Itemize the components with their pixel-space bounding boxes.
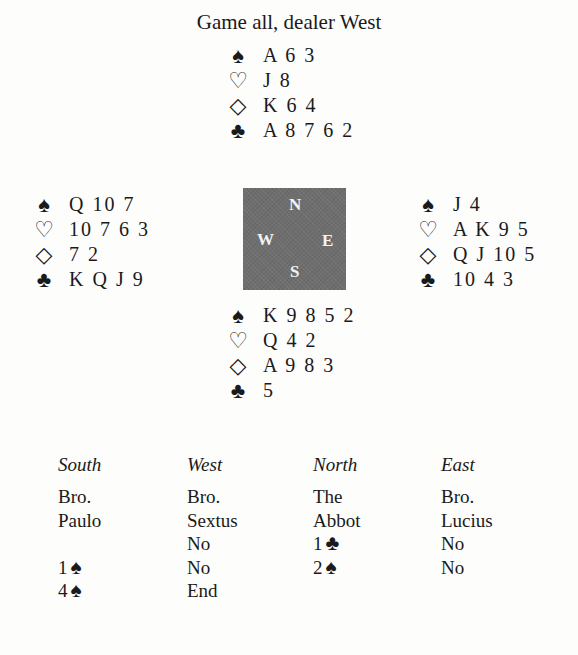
spade-icon: ♠: [417, 192, 439, 217]
east-hearts-row: ♡ A K 9 5: [417, 217, 536, 242]
east-diamonds-row: ◇ Q J 10 5: [417, 242, 536, 267]
bidding-column-north: North The Abbot 1♣ 2♠: [313, 452, 361, 579]
player-name: Bro.: [187, 485, 238, 509]
heart-icon: ♡: [33, 217, 55, 242]
south-hand: ♠ K 9 8 5 2 ♡ Q 4 2 ◇ A 9 8 3 ♣ 5: [227, 303, 355, 403]
spade-icon: ♠: [227, 303, 249, 328]
deal-title: Game all, dealer West: [0, 10, 578, 35]
bid: No: [187, 532, 238, 556]
player-name: Bro.: [58, 485, 101, 509]
south-diamonds: A 9 8 3: [263, 353, 335, 378]
south-hearts: Q 4 2: [263, 328, 317, 353]
compass-table: N W E S: [243, 188, 346, 290]
bidding-column-west: West Bro. Sextus No No End: [187, 452, 238, 603]
east-hand: ♠ J 4 ♡ A K 9 5 ◇ Q J 10 5 ♣ 10 4 3: [417, 192, 536, 292]
player-name: The: [313, 485, 361, 509]
north-hearts-row: ♡ J 8: [227, 68, 354, 93]
west-hearts-row: ♡ 10 7 6 3: [33, 217, 150, 242]
bid: No: [441, 556, 493, 580]
compass-north-label: N: [289, 195, 301, 215]
west-hearts: 10 7 6 3: [69, 217, 150, 242]
north-hand: ♠ A 6 3 ♡ J 8 ◇ K 6 4 ♣ A 8 7 6 2: [227, 43, 354, 143]
north-diamonds: K 6 4: [263, 93, 317, 118]
south-spades-row: ♠ K 9 8 5 2: [227, 303, 355, 328]
east-diamonds: Q J 10 5: [453, 242, 536, 267]
south-clubs: 5: [263, 378, 275, 403]
bidding-column-east: East Bro. Lucius No No: [441, 452, 493, 579]
west-diamonds-row: ◇ 7 2: [33, 242, 150, 267]
club-icon: ♣: [33, 267, 55, 292]
diamond-icon: ◇: [33, 242, 55, 267]
player-name: Paulo: [58, 509, 101, 533]
north-spades: A 6 3: [263, 43, 316, 68]
club-icon: ♣: [227, 378, 249, 403]
spade-icon: ♠: [71, 578, 82, 602]
player-name: Sextus: [187, 509, 238, 533]
player-name: Abbot: [313, 509, 361, 533]
bid: No: [187, 556, 238, 580]
heart-icon: ♡: [227, 68, 249, 93]
bid: 1♣: [313, 532, 361, 556]
west-clubs-row: ♣ K Q J 9: [33, 267, 150, 292]
north-hearts: J 8: [263, 68, 292, 93]
east-spades: J 4: [453, 192, 482, 217]
east-clubs-row: ♣ 10 4 3: [417, 267, 536, 292]
west-spades: Q 10 7: [69, 192, 135, 217]
bidding-header-north: North: [313, 452, 361, 485]
spade-icon: ♠: [33, 192, 55, 217]
heart-icon: ♡: [227, 328, 249, 353]
compass-east-label: E: [322, 231, 333, 251]
bidding-column-south: South Bro. Paulo 1♠ 4♠: [58, 452, 101, 603]
west-clubs: K Q J 9: [69, 267, 145, 292]
bidding-header-south: South: [58, 452, 101, 485]
north-clubs: A 8 7 6 2: [263, 118, 354, 143]
north-diamonds-row: ◇ K 6 4: [227, 93, 354, 118]
diamond-icon: ◇: [227, 353, 249, 378]
south-hearts-row: ♡ Q 4 2: [227, 328, 355, 353]
bidding-header-east: East: [441, 452, 493, 485]
player-name: Lucius: [441, 509, 493, 533]
west-diamonds: 7 2: [69, 242, 100, 267]
diamond-icon: ◇: [417, 242, 439, 267]
south-diamonds-row: ◇ A 9 8 3: [227, 353, 355, 378]
north-spades-row: ♠ A 6 3: [227, 43, 354, 68]
bid: [58, 532, 101, 556]
spade-icon: ♠: [227, 43, 249, 68]
bid: 4♠: [58, 579, 101, 603]
north-clubs-row: ♣ A 8 7 6 2: [227, 118, 354, 143]
bid: 2♠: [313, 556, 361, 580]
bid: 1♠: [58, 556, 101, 580]
south-clubs-row: ♣ 5: [227, 378, 355, 403]
south-spades: K 9 8 5 2: [263, 303, 355, 328]
heart-icon: ♡: [417, 217, 439, 242]
east-spades-row: ♠ J 4: [417, 192, 536, 217]
club-icon: ♣: [417, 267, 439, 292]
bid: End: [187, 579, 238, 603]
player-name: Bro.: [441, 485, 493, 509]
west-spades-row: ♠ Q 10 7: [33, 192, 150, 217]
bidding-header-west: West: [187, 452, 238, 485]
club-icon: ♣: [326, 531, 340, 555]
spade-icon: ♠: [71, 555, 82, 579]
diamond-icon: ◇: [227, 93, 249, 118]
spade-icon: ♠: [326, 555, 337, 579]
compass-south-label: S: [290, 262, 299, 282]
east-hearts: A K 9 5: [453, 217, 530, 242]
east-clubs: 10 4 3: [453, 267, 515, 292]
bid: No: [441, 532, 493, 556]
west-hand: ♠ Q 10 7 ♡ 10 7 6 3 ◇ 7 2 ♣ K Q J 9: [33, 192, 150, 292]
compass-west-label: W: [257, 230, 274, 250]
club-icon: ♣: [227, 118, 249, 143]
